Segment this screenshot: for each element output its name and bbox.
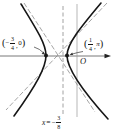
x-axis-arrowhead-icon [105,54,112,58]
hyperbola-figure: ( − 3 4 , 0 ) ( 1 4 , π ) O x = − 3 8 [0,0,114,131]
directrix-fraction: 3 8 [56,115,61,130]
right-label-open-paren: ( [84,39,88,50]
right-vertex-dot [65,54,69,58]
right-label-fraction-numerator: 1 [88,37,93,45]
origin-label: O [80,57,86,66]
directrix-fraction-denominator: 8 [57,123,60,130]
right-label-fraction-denominator: 4 [89,45,92,52]
directrix-label: x = − 3 8 [42,115,62,130]
directrix-minus: − [52,119,56,127]
left-label-close-paren: ) [22,38,26,49]
figure-drawing [0,0,114,131]
hyperbola-right-branch [67,3,108,119]
left-label-fraction-denominator: 4 [11,44,14,51]
left-vertex-label: ( − 3 4 , 0 ) [2,36,25,51]
right-label-close-paren: ) [100,39,104,50]
right-label-fraction: 1 4 [88,37,93,52]
hyperbola-left-branch [14,4,46,116]
directrix-equals: = [46,119,50,127]
directrix-variable: x [42,119,45,127]
right-leader-arrowhead-icon [70,53,74,56]
right-label-leader-arrow [72,52,83,55]
right-vertex-label: ( 1 4 , π ) [84,37,103,52]
directrix-fraction-numerator: 3 [56,115,61,123]
left-label-fraction: 3 4 [10,36,15,51]
left-label-leader-arrow [34,47,43,53]
asymptote-line-2 [6,3,107,110]
left-label-fraction-numerator: 3 [10,36,15,44]
left-label-minus: − [6,40,10,47]
